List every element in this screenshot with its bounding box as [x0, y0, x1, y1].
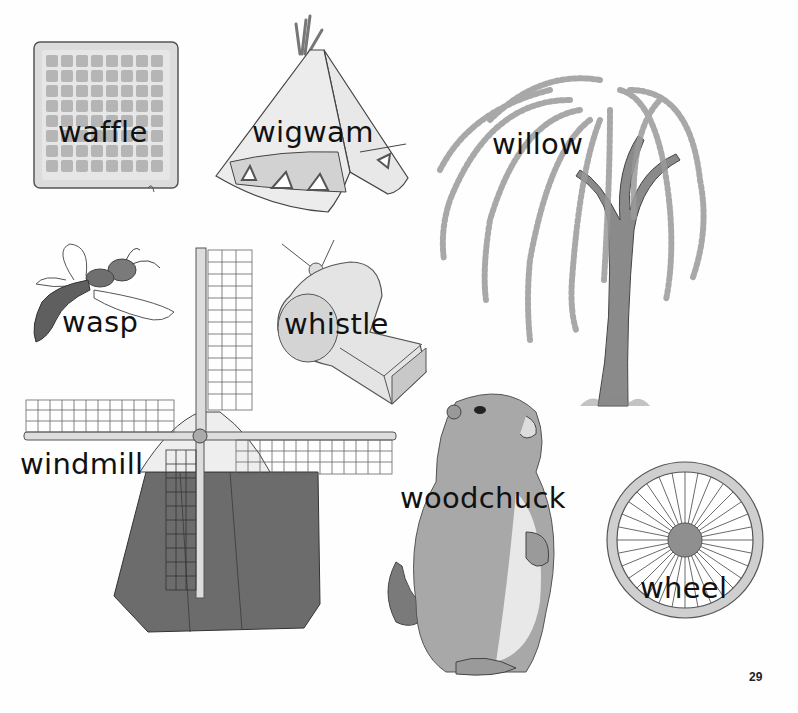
willow-illustration: [430, 60, 730, 420]
woodchuck-illustration: [376, 382, 576, 682]
label-wheel: wheel: [640, 574, 727, 603]
book-page: waffle wigwam: [0, 0, 798, 713]
label-wigwam: wigwam: [252, 118, 374, 147]
label-woodchuck: woodchuck: [400, 484, 566, 513]
label-waffle: waffle: [58, 118, 148, 147]
page-number: 29: [749, 670, 762, 684]
windmill-illustration: [20, 244, 400, 644]
label-windmill: windmill: [20, 450, 143, 479]
label-willow: willow: [492, 130, 583, 159]
